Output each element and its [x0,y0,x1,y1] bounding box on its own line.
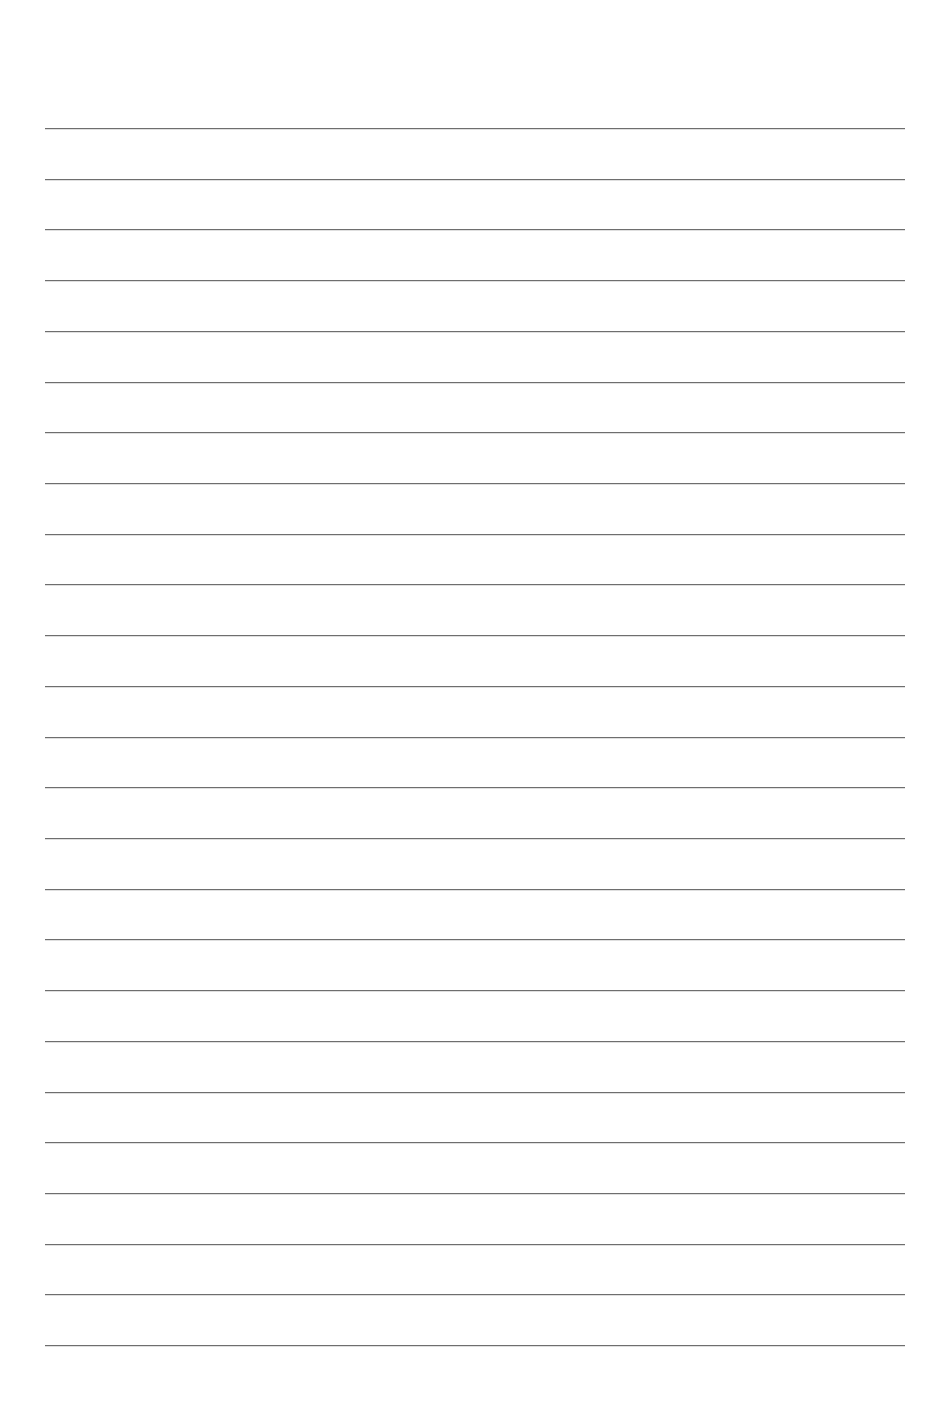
writing-area[interactable] [45,128,905,1345]
paper-page: Blank Lined Paper [0,0,928,1402]
rule-line [45,1345,905,1346]
